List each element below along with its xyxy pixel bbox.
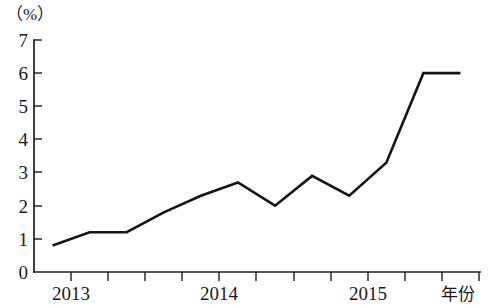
y-tick-label-0: 0 <box>19 262 29 283</box>
y-tick-label-4: 4 <box>19 129 29 150</box>
y-tick-label-1: 1 <box>19 229 29 250</box>
y-tick-label-3: 3 <box>19 162 29 183</box>
data-series-line <box>53 73 461 245</box>
y-tick-label-2: 2 <box>19 196 29 217</box>
x-tick-label-2013: 2013 <box>52 283 90 304</box>
y-axis-unit-label: （%） <box>6 5 54 24</box>
chart-screenshot: （%） 7 6 5 4 3 2 1 0 201 <box>0 0 504 305</box>
x-tick-label-2014: 2014 <box>200 283 239 304</box>
y-tick-label-7: 7 <box>19 30 29 51</box>
y-tick-label-5: 5 <box>19 96 29 117</box>
y-tick-label-6: 6 <box>19 63 29 84</box>
x-tick-label-2015: 2015 <box>349 283 387 304</box>
line-chart: （%） 7 6 5 4 3 2 1 0 201 <box>0 0 504 305</box>
x-axis-name-label: 年份 <box>441 284 475 304</box>
